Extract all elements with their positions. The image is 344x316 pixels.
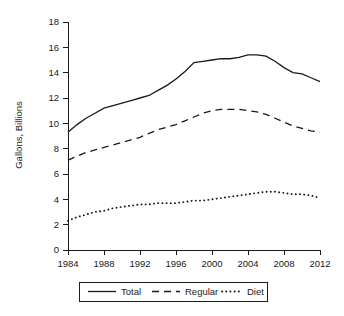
- y-axis-title: Gallons, Billions: [13, 101, 24, 169]
- x-tick-label: 1988: [93, 258, 114, 269]
- y-tick-label: 10: [48, 118, 59, 129]
- y-tick-label: 2: [54, 219, 59, 230]
- x-tick-label: 1984: [57, 258, 78, 269]
- legend-label-diet: Diet: [247, 286, 264, 297]
- y-tick-label: 12: [48, 92, 59, 103]
- x-tick-label: 1992: [129, 258, 150, 269]
- y-tick-label: 6: [54, 168, 59, 179]
- legend-label-regular: Regular: [185, 286, 218, 297]
- x-tick-label: 2012: [309, 258, 330, 269]
- y-tick-label: 18: [48, 16, 59, 27]
- x-tick-label: 2004: [237, 258, 258, 269]
- chart-legend: Total Regular Diet: [79, 282, 267, 301]
- y-tick-label: 4: [54, 194, 59, 205]
- chart-figure: Gallons, Billions 0 2 4 6 8 10 12 14 16 …: [0, 0, 344, 316]
- y-tick-label: 0: [54, 244, 59, 255]
- x-tick-label: 2008: [273, 258, 294, 269]
- legend-label-total: Total: [121, 286, 141, 297]
- x-tick-label: 1996: [165, 258, 186, 269]
- y-tick-label: 14: [48, 67, 59, 78]
- y-tick-label: 8: [54, 143, 59, 154]
- y-tick-label: 16: [48, 42, 59, 53]
- x-tick-label: 2000: [201, 258, 222, 269]
